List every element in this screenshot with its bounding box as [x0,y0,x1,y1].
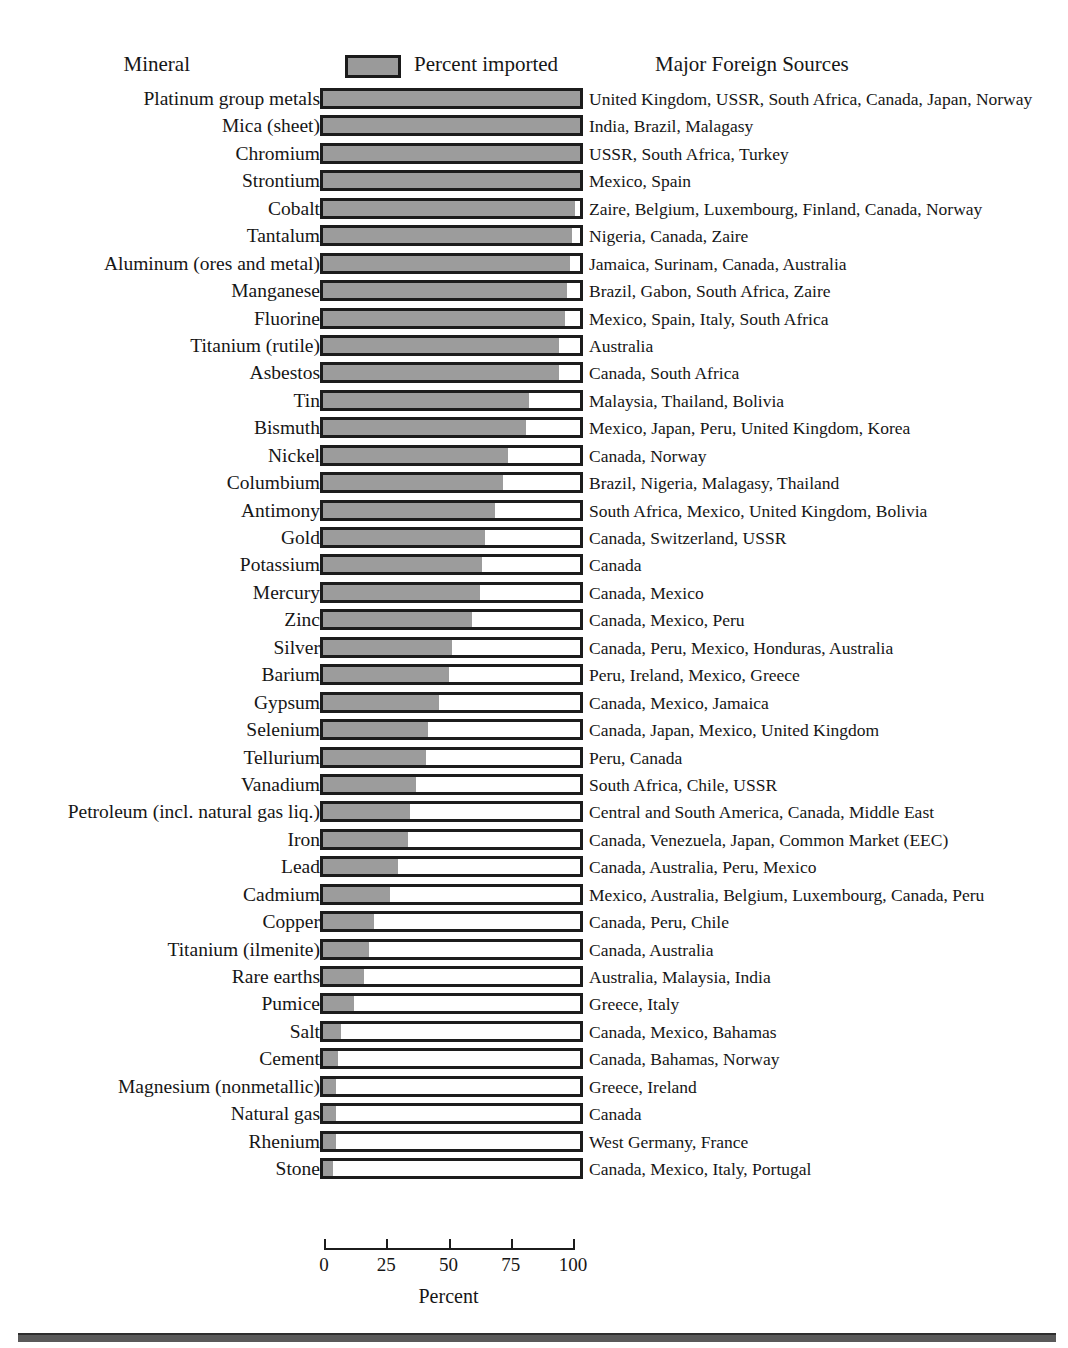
bar-fill-percent-imported [323,832,408,847]
chart-row: AntimonySouth Africa, Mexico, United Kin… [0,500,1068,527]
chart-row: ManganeseBrazil, Gabon, South Africa, Za… [0,280,1068,307]
bar-fill-percent-imported [323,228,572,243]
chart-row: SaltCanada, Mexico, Bahamas [0,1021,1068,1048]
axis-tick-mark [511,1239,513,1250]
bar-fill-percent-imported [323,887,390,902]
axis-tick-label: 50 [439,1254,458,1276]
row-foreign-sources: Canada, Mexico, Jamaica [589,693,769,713]
row-foreign-sources: South Africa, Chile, USSR [589,775,777,795]
row-foreign-sources: Zaire, Belgium, Luxembourg, Finland, Can… [589,199,982,219]
legend-swatch-icon [345,55,401,78]
row-foreign-sources: Canada [589,1104,641,1124]
bar-track [320,1076,583,1097]
row-foreign-sources: Jamaica, Surinam, Canada, Australia [589,254,847,274]
row-label-mineral: Magnesium (nonmetallic) [10,1076,320,1097]
chart-row: CobaltZaire, Belgium, Luxembourg, Finlan… [0,198,1068,225]
row-label-mineral: Salt [10,1021,320,1042]
bar-track [320,362,583,383]
row-label-mineral: Copper [10,911,320,932]
row-label-mineral: Petroleum (incl. natural gas liq.) [10,801,320,822]
chart-row: ChromiumUSSR, South Africa, Turkey [0,143,1068,170]
axis-line [324,1248,573,1250]
chart-row: IronCanada, Venezuela, Japan, Common Mar… [0,829,1068,856]
bar-fill-percent-imported [323,859,398,874]
row-foreign-sources: Greece, Ireland [589,1077,697,1097]
bar-track [320,939,583,960]
row-foreign-sources: Peru, Ireland, Mexico, Greece [589,665,800,685]
bar-fill-percent-imported [323,667,449,682]
row-foreign-sources: Peru, Canada [589,748,682,768]
row-label-mineral: Pumice [10,993,320,1014]
bar-fill-percent-imported [323,585,480,600]
row-label-mineral: Tin [10,390,320,411]
chart-row: CadmiumMexico, Australia, Belgium, Luxem… [0,884,1068,911]
row-label-mineral: Bismuth [10,417,320,438]
bottom-rule-divider [18,1333,1056,1342]
row-label-mineral: Nickel [10,445,320,466]
row-label-mineral: Titanium (rutile) [10,335,320,356]
row-label-mineral: Platinum group metals [10,88,320,109]
bar-track [320,1131,583,1152]
row-foreign-sources: Brazil, Nigeria, Malagasy, Thailand [589,473,839,493]
chart-row: VanadiumSouth Africa, Chile, USSR [0,774,1068,801]
row-label-mineral: Rhenium [10,1131,320,1152]
chart-row: Natural gasCanada [0,1103,1068,1130]
bar-fill-percent-imported [323,201,575,216]
bar-fill-percent-imported [323,750,426,765]
bar-track [320,225,583,246]
bar-track [320,1048,583,1069]
row-label-mineral: Gold [10,527,320,548]
bar-track [320,88,583,109]
row-foreign-sources: USSR, South Africa, Turkey [589,144,789,164]
bar-track [320,856,583,877]
chart-row: PotassiumCanada [0,554,1068,581]
row-label-mineral: Zinc [10,609,320,630]
row-label-mineral: Iron [10,829,320,850]
legend-label: Percent imported [414,50,558,78]
axis-tick-mark [449,1239,451,1250]
bar-fill-percent-imported [323,283,567,298]
bar-fill-percent-imported [323,1161,333,1176]
row-label-mineral: Chromium [10,143,320,164]
bar-track [320,1021,583,1042]
chart-row: PumiceGreece, Italy [0,993,1068,1020]
row-foreign-sources: Canada, South Africa [589,363,739,383]
row-foreign-sources: Canada, Norway [589,446,707,466]
bar-track [320,335,583,356]
chart-row: Petroleum (incl. natural gas liq.)Centra… [0,801,1068,828]
column-header-mineral-text: Mineral [124,52,318,76]
bar-track [320,966,583,987]
row-label-mineral: Mica (sheet) [10,115,320,136]
row-foreign-sources: South Africa, Mexico, United Kingdom, Bo… [589,501,927,521]
bar-track [320,884,583,905]
row-label-mineral: Barium [10,664,320,685]
row-label-mineral: Aluminum (ores and metal) [10,253,320,274]
axis-tick-label: 25 [377,1254,396,1276]
bar-fill-percent-imported [323,914,374,929]
bar-track [320,637,583,658]
bar-fill-percent-imported [323,942,369,957]
bar-fill-percent-imported [323,996,354,1011]
bar-fill-percent-imported [323,365,559,380]
row-foreign-sources: Central and South America, Canada, Middl… [589,802,934,822]
axis-tick-label: 100 [559,1254,588,1276]
bar-fill-percent-imported [323,530,485,545]
chart-row: AsbestosCanada, South Africa [0,362,1068,389]
bar-track [320,664,583,685]
row-label-mineral: Lead [10,856,320,877]
chart-row: NickelCanada, Norway [0,445,1068,472]
bar-track [320,829,583,850]
row-foreign-sources: Brazil, Gabon, South Africa, Zaire [589,281,831,301]
bar-track [320,911,583,932]
row-foreign-sources: Australia [589,336,653,356]
bar-fill-percent-imported [323,1134,336,1149]
row-foreign-sources: Malaysia, Thailand, Bolivia [589,391,784,411]
bar-fill-percent-imported [323,722,428,737]
row-label-mineral: Cadmium [10,884,320,905]
chart-row: MercuryCanada, Mexico [0,582,1068,609]
chart-row: ColumbiumBrazil, Nigeria, Malagasy, Thai… [0,472,1068,499]
bar-track [320,198,583,219]
bar-track [320,719,583,740]
row-label-mineral: Silver [10,637,320,658]
bar-track [320,801,583,822]
